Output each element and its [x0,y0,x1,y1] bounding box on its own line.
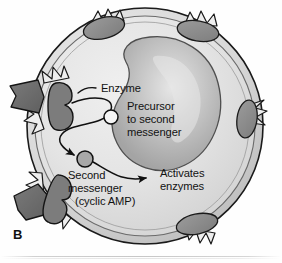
label-precursor-line3: messenger [127,126,182,138]
precursor-molecule [104,110,118,124]
label-second-messenger-line2: messenger [68,182,123,194]
label-second-messenger-line3: (cyclic AMP) [75,195,136,207]
ligand-hormone-left [10,80,44,113]
label-enzyme: Enzyme [101,82,141,94]
label-activates-line1: Activates [160,167,205,179]
label-precursor-line1: Precursor [127,100,175,112]
bottom-divider-secondary [0,258,282,259]
label-second-messenger-line1: Second [68,169,105,181]
second-messenger-molecule [77,151,93,167]
label-precursor-line2: to second [127,113,175,125]
receptor-bottom-left [14,172,71,229]
label-activates-line2: enzymes [160,180,205,192]
cell-signaling-diagram: Enzyme Precursor to second messenger Sec… [0,0,282,263]
bottom-divider [0,256,282,257]
figure-root: Enzyme Precursor to second messenger Sec… [0,0,282,263]
panel-label-b: B [13,227,22,242]
